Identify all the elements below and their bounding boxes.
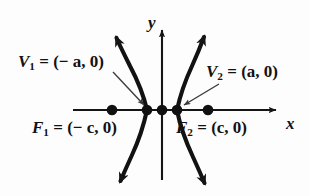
right-branch-upper bbox=[177, 37, 204, 110]
label-vertex-2-subscript: 2 bbox=[217, 70, 223, 82]
label-vertex-1-subscript: 1 bbox=[29, 60, 35, 72]
label-vertex-2-equals: = bbox=[227, 62, 237, 81]
point-origin bbox=[157, 105, 168, 116]
label-vertex-2: V2 = (a, 0) bbox=[206, 63, 278, 82]
label-vertex-1-equals: = bbox=[39, 52, 49, 71]
label-focus-2-equals: = bbox=[197, 118, 207, 137]
leader-v2 bbox=[184, 84, 219, 105]
label-focus-1: F1 = (− c, 0) bbox=[32, 119, 117, 138]
hyperbola-figure: V1 = (− a, 0) V2 = (a, 0) F1 = (− c, 0) … bbox=[0, 0, 309, 196]
y-axis-label: y bbox=[148, 14, 156, 31]
label-focus-1-equals: = bbox=[53, 118, 63, 137]
point-vertex-right bbox=[172, 105, 183, 116]
label-vertex-2-symbol: V bbox=[206, 62, 217, 81]
label-vertex-1: V1 = (− a, 0) bbox=[18, 53, 104, 72]
x-axis-label: x bbox=[286, 115, 295, 132]
label-focus-2-value: (c, 0) bbox=[211, 118, 247, 137]
label-focus-2-subscript: 2 bbox=[187, 126, 193, 138]
left-branch-upper bbox=[117, 38, 148, 110]
label-focus-2: F2 = (c, 0) bbox=[176, 119, 247, 138]
label-vertex-1-symbol: V bbox=[18, 52, 29, 71]
point-focus-right bbox=[203, 105, 214, 116]
label-focus-1-subscript: 1 bbox=[43, 126, 49, 138]
leader-lines bbox=[113, 72, 219, 105]
left-branch-lower bbox=[121, 110, 148, 181]
label-vertex-1-value: (− a, 0) bbox=[53, 52, 104, 71]
point-vertex-left bbox=[142, 105, 153, 116]
label-focus-1-value: (− c, 0) bbox=[67, 118, 117, 137]
label-focus-1-symbol: F bbox=[32, 118, 43, 137]
label-focus-2-symbol: F bbox=[176, 118, 187, 137]
label-vertex-2-value: (a, 0) bbox=[241, 62, 278, 81]
point-focus-left bbox=[107, 105, 118, 116]
